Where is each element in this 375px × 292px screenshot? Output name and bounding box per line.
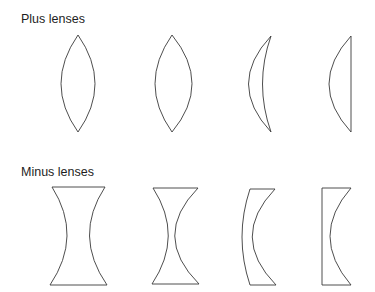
lens-biconvex bbox=[61, 35, 95, 132]
lens-biconcave-asymmetric bbox=[152, 188, 199, 284]
lens-biconvex-asymmetric bbox=[155, 35, 192, 132]
lens-negative-meniscus bbox=[242, 189, 276, 285]
lens-positive-meniscus bbox=[249, 36, 272, 132]
lens-plano-concave bbox=[322, 188, 351, 285]
minus-lenses-group bbox=[50, 187, 351, 285]
lens-diagram bbox=[0, 0, 375, 292]
lens-biconcave bbox=[50, 187, 107, 285]
plus-lenses-group bbox=[61, 35, 351, 132]
lens-plano-convex bbox=[329, 36, 351, 132]
